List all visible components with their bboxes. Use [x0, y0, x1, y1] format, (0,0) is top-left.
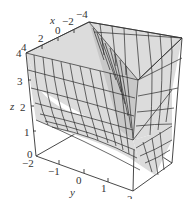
y-axis: −2 −1 0 1 2 y [22, 157, 133, 199]
y-tick-2: 2 [127, 193, 133, 199]
z-tick-3: 3 [17, 75, 23, 87]
surface [26, 22, 182, 175]
z-tick-4: 4 [21, 41, 27, 53]
x-tick-2: 2 [38, 32, 44, 44]
z-tick-1: 1 [24, 126, 30, 138]
y-tick-0: 0 [76, 174, 82, 186]
surface-plot: 4 2 0 −2 −4 x 4 3 2 1 0 z −2 −1 0 1 2 y [0, 0, 192, 199]
x-tick-0: 0 [55, 24, 61, 36]
x-tick-neg2: −2 [62, 15, 74, 27]
x-tick-neg4: −4 [76, 8, 88, 20]
z-tick-2: 2 [20, 101, 26, 113]
y-tick-neg1: −1 [48, 165, 60, 177]
x-axis-label: x [49, 14, 55, 26]
y-tick-1: 1 [101, 182, 107, 194]
y-axis-label: y [69, 186, 75, 198]
y-tick-neg2: −2 [22, 157, 34, 169]
z-axis-label: z [9, 100, 15, 112]
